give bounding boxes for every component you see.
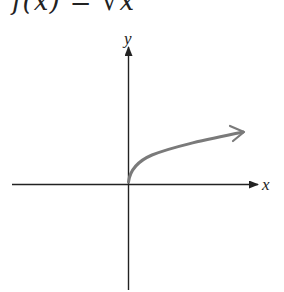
graph-canvas: x y — [0, 0, 284, 292]
sqrt-curve — [129, 132, 244, 182]
y-axis-label: y — [122, 29, 132, 48]
sqrt-function-graph: f(x) = √x x y — [0, 0, 284, 292]
x-axis-label: x — [261, 175, 270, 194]
